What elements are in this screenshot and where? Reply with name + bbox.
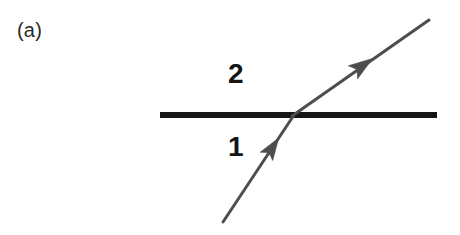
medium-label-lower: 1 bbox=[228, 133, 244, 161]
refraction-diagram bbox=[0, 0, 460, 235]
figure-panel-a: (a) 2 1 bbox=[0, 0, 460, 235]
medium-label-upper: 2 bbox=[228, 60, 244, 88]
incident-ray-arrowhead-icon bbox=[260, 134, 285, 161]
